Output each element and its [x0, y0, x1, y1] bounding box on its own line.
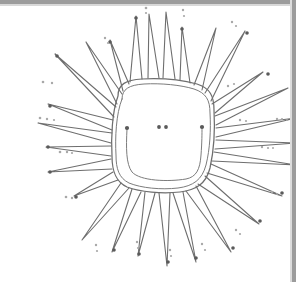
spike-e-3 [215, 140, 296, 149]
spike-tip-dot-4 [55, 54, 59, 58]
spike-tip-dot-8 [74, 195, 78, 199]
spike-tip-dot-5 [48, 104, 52, 108]
scatter-dot-26 [204, 249, 206, 251]
spike-tip-dot-16 [266, 72, 270, 76]
scatter-dot-35 [267, 147, 269, 149]
scatter-dot-8 [235, 25, 237, 27]
dot-group [39, 7, 288, 264]
scatter-dot-6 [107, 42, 109, 44]
scatter-dot-15 [66, 151, 68, 153]
spike-w-1 [48, 159, 112, 172]
scatter-dot-11 [39, 117, 42, 120]
center-dot-2 [164, 125, 168, 129]
spike-n-3 [163, 12, 175, 79]
scatter-dot-31 [276, 118, 278, 120]
scatter-dot-23 [169, 249, 171, 251]
line-drawing-artwork [0, 0, 299, 282]
scatter-dot-4 [183, 15, 185, 17]
spike-tip-dot-14 [258, 219, 262, 223]
scatter-dot-27 [235, 229, 237, 231]
spike-s-3 [138, 192, 155, 256]
spike-group [38, 12, 296, 266]
spike-tip-dot-15 [280, 191, 284, 195]
spike-s-2 [159, 193, 170, 266]
scatter-dot-33 [286, 119, 288, 121]
scan-edge-top-highlight [0, 4, 299, 6]
scatter-dot-28 [239, 233, 241, 235]
spike-nw-2 [86, 42, 122, 104]
scatter-dot-30 [276, 193, 278, 195]
scatter-dot-16 [71, 152, 73, 154]
scatter-dot-21 [136, 241, 138, 243]
scatter-dot-36 [272, 147, 274, 149]
scatter-dot-34 [261, 146, 263, 148]
spike-se-1 [207, 164, 282, 196]
spike-sw-3 [74, 172, 118, 196]
scatter-dot-38 [245, 120, 247, 122]
scatter-dot-22 [137, 247, 139, 249]
scatter-dot-7 [231, 21, 233, 23]
spike-e-4 [212, 152, 296, 165]
spike-tip-dot-6 [46, 145, 50, 149]
spike-n-1 [130, 16, 142, 82]
spike-tip-dot-7 [48, 170, 52, 174]
spike-tip-dot-13 [231, 246, 235, 250]
spike-nw-3 [110, 40, 129, 91]
inner-curve-left-terminal-dot [125, 126, 129, 130]
scatter-dot-37 [239, 119, 241, 121]
scatter-dot-24 [170, 255, 172, 257]
scatter-dot-20 [96, 250, 98, 252]
scatter-dot-29 [271, 191, 273, 193]
center-dot-1 [157, 125, 161, 129]
scatter-dot-39 [227, 85, 229, 87]
spike-tip-dot-11 [166, 260, 170, 264]
spike-w-2 [46, 146, 111, 156]
scatter-dot-3 [182, 9, 184, 11]
scatter-dot-17 [65, 196, 68, 199]
spike-e-2 [216, 118, 296, 137]
inner-curve-group [125, 125, 204, 181]
spike-se-2 [198, 176, 259, 224]
spike-tip-dot-10 [137, 252, 141, 256]
scatter-dot-40 [233, 83, 235, 85]
spike-ne-1 [180, 27, 190, 83]
inner-curve-line [127, 128, 202, 181]
scatter-dot-25 [201, 243, 203, 245]
scatter-dot-12 [46, 118, 48, 120]
spike-tip-dot-17 [245, 31, 249, 35]
scatter-dot-10 [51, 82, 53, 84]
inner-curve-right-terminal-dot [200, 125, 204, 129]
spike-tip-dot-9 [112, 248, 116, 252]
scatter-dot-18 [71, 197, 73, 199]
scatter-dot-1 [145, 7, 148, 10]
scatter-dot-5 [104, 37, 106, 39]
spike-tip-dot-1 [134, 16, 138, 20]
spike-tip-dot-2 [180, 27, 184, 31]
scatter-dot-9 [42, 81, 45, 84]
scatter-dot-19 [95, 244, 97, 246]
scatter-dot-13 [53, 119, 55, 121]
scatter-dot-32 [281, 118, 283, 120]
spike-n-2 [148, 14, 159, 78]
scatter-dot-2 [145, 12, 147, 14]
scan-edge-right-margin [296, 0, 299, 282]
screenshot-canvas [0, 0, 299, 282]
spike-s-1 [173, 192, 196, 262]
spike-tip-dot-12 [194, 256, 198, 260]
scatter-dot-14 [59, 151, 62, 154]
